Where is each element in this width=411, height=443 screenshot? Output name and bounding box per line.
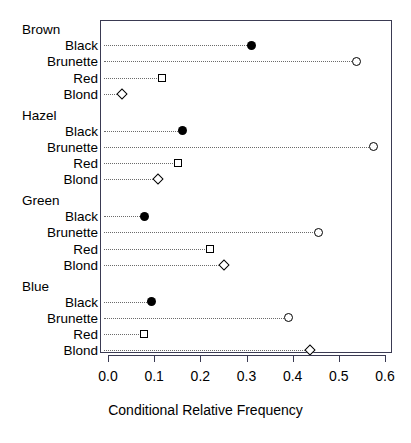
leader-line-blue-black xyxy=(104,302,149,304)
row-label-hazel-red: Red xyxy=(73,157,98,171)
leader-line-hazel-blond xyxy=(104,179,155,181)
leader-line-brown-brunette xyxy=(104,61,354,63)
data-point-blue-red[interactable] xyxy=(140,330,148,338)
leader-line-blue-red xyxy=(104,334,141,336)
data-point-green-red[interactable] xyxy=(206,245,214,253)
x-axis-tick-label-0.3: 0.3 xyxy=(222,369,272,383)
x-axis-tick-0.6 xyxy=(385,355,386,362)
x-axis-tick-label-0.0: 0.0 xyxy=(83,369,133,383)
leader-line-hazel-brunette xyxy=(104,147,371,149)
row-label-green-brunette: Brunette xyxy=(47,226,98,240)
leader-line-green-red xyxy=(104,249,207,251)
data-point-brown-black[interactable] xyxy=(247,41,256,50)
row-label-blue-red: Red xyxy=(73,328,98,342)
x-axis-tick-label-0.4: 0.4 xyxy=(268,369,318,383)
x-axis-tick-label-0.6: 0.6 xyxy=(360,369,410,383)
x-axis-tick-0.5 xyxy=(339,355,340,362)
leader-line-brown-black xyxy=(104,45,249,47)
x-axis-tick-label-0.1: 0.1 xyxy=(129,369,179,383)
row-label-brown-blond: Blond xyxy=(63,88,98,102)
x-axis-tick-0.1 xyxy=(154,355,155,362)
data-point-green-brunette[interactable] xyxy=(314,228,323,237)
row-label-brown-red: Red xyxy=(73,72,98,86)
leader-line-green-black xyxy=(104,216,142,218)
data-point-hazel-red[interactable] xyxy=(174,159,182,167)
leader-line-brown-red xyxy=(104,78,159,80)
row-label-green-blond: Blond xyxy=(63,259,98,273)
x-axis-tick-0.4 xyxy=(293,355,294,362)
row-label-brown-brunette: Brunette xyxy=(47,55,98,69)
row-label-blue-brunette: Brunette xyxy=(47,312,98,326)
row-label-brown-black: Black xyxy=(65,39,98,53)
row-label-blue-blond: Blond xyxy=(63,344,98,358)
leader-line-green-blond xyxy=(104,265,221,267)
leader-line-blue-brunette xyxy=(104,318,286,320)
row-label-green-black: Black xyxy=(65,210,98,224)
leader-line-green-brunette xyxy=(104,232,315,234)
data-point-brown-red[interactable] xyxy=(158,74,166,82)
dot-plot-chart: Conditional Relative Frequency BrownBlac… xyxy=(0,0,411,443)
x-axis-title: Conditional Relative Frequency xyxy=(0,403,411,417)
row-label-blue-black: Black xyxy=(65,296,98,310)
x-axis-tick-0.2 xyxy=(200,355,201,362)
group-label-green: Green xyxy=(22,194,60,208)
leader-line-hazel-black xyxy=(104,131,180,133)
group-label-brown: Brown xyxy=(22,23,60,37)
x-axis-tick-label-0.5: 0.5 xyxy=(314,369,364,383)
x-axis-tick-0.3 xyxy=(247,355,248,362)
group-label-blue: Blue xyxy=(22,280,49,294)
row-label-hazel-black: Black xyxy=(65,125,98,139)
row-label-hazel-blond: Blond xyxy=(63,173,98,187)
leader-line-hazel-red xyxy=(104,163,175,165)
leader-line-blue-blond xyxy=(104,350,307,352)
row-label-green-red: Red xyxy=(73,243,98,257)
row-label-hazel-brunette: Brunette xyxy=(47,141,98,155)
group-label-hazel: Hazel xyxy=(22,109,57,123)
x-axis-tick-label-0.2: 0.2 xyxy=(175,369,225,383)
x-axis-tick-0.0 xyxy=(108,355,109,362)
